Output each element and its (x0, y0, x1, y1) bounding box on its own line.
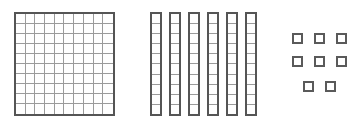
hundreds-flat-cell (26, 94, 36, 104)
tens-rod-cell (152, 14, 160, 24)
hundreds-flat-cell (16, 64, 26, 74)
tens-rod-cell (171, 44, 179, 54)
tens-rod-cell (209, 95, 217, 105)
tens-rod-cell (152, 34, 160, 44)
tens-rod-cell (247, 44, 255, 54)
tens-rod-cell (228, 44, 236, 54)
tens-rod-cell (190, 75, 198, 85)
tens-rods-group (150, 12, 257, 116)
hundreds-flat-cell (84, 104, 94, 114)
hundreds-flat-cell (64, 64, 74, 74)
hundreds-flat-cell (35, 44, 45, 54)
hundreds-flat-cell (103, 44, 113, 54)
hundreds-flat-cell (45, 64, 55, 74)
hundreds-flat-cell (45, 24, 55, 34)
ones-cube (314, 33, 325, 44)
hundreds-flat-cell (94, 64, 104, 74)
tens-rod-cell (171, 85, 179, 95)
tens-rod-cell (247, 54, 255, 64)
tens-rod-cell (228, 64, 236, 74)
tens-rod-cell (247, 14, 255, 24)
hundreds-flat-cell (64, 24, 74, 34)
tens-rod-cell (209, 24, 217, 34)
hundreds-flat-cell (26, 104, 36, 114)
hundreds-flat-cell (74, 44, 84, 54)
tens-rod-cell (152, 95, 160, 105)
hundreds-flat-cell (94, 44, 104, 54)
ones-cube (292, 56, 303, 67)
hundreds-flat-cell (94, 104, 104, 114)
hundreds-flat-cell (35, 34, 45, 44)
hundreds-flat-cell (74, 54, 84, 64)
hundreds-flat-cell (94, 34, 104, 44)
hundreds-flat-cell (94, 94, 104, 104)
tens-rod-cell (190, 85, 198, 95)
tens-rod-cell (171, 75, 179, 85)
tens-rod-cell (171, 34, 179, 44)
hundreds-flat-cell (16, 44, 26, 54)
hundreds-flat-cell (74, 74, 84, 84)
hundreds-flat-cell (26, 64, 36, 74)
tens-rod-cell (247, 105, 255, 114)
hundreds-flat-cell (26, 44, 36, 54)
hundreds-flat-cell (74, 24, 84, 34)
hundreds-flat-cell (55, 54, 65, 64)
hundreds-flat-cell (35, 74, 45, 84)
hundreds-flat-cell (55, 104, 65, 114)
tens-rod-cell (247, 95, 255, 105)
hundreds-flat-cell (45, 34, 55, 44)
hundreds-flat-cell (16, 74, 26, 84)
tens-rod-cell (228, 85, 236, 95)
hundreds-flat-cell (64, 54, 74, 64)
hundreds-flat-cell (74, 104, 84, 114)
tens-rod-cell (228, 95, 236, 105)
hundreds-flat-cell (26, 74, 36, 84)
hundreds-flat-cell (103, 54, 113, 64)
hundreds-flat-cell (55, 74, 65, 84)
hundreds-flat-cell (16, 54, 26, 64)
hundreds-flat-cell (35, 14, 45, 24)
tens-rod-cell (190, 34, 198, 44)
hundreds-flat-cell (84, 74, 94, 84)
hundreds-flat-block (14, 12, 115, 116)
hundreds-flat-cell (55, 24, 65, 34)
hundreds-flat-cell (64, 34, 74, 44)
ones-cube (292, 33, 303, 44)
hundreds-flat-cell (55, 84, 65, 94)
tens-rod-cell (171, 24, 179, 34)
hundreds-flat-cell (84, 44, 94, 54)
tens-rod-cell (152, 105, 160, 114)
tens-rod (245, 12, 257, 116)
hundreds-flat-cell (74, 14, 84, 24)
tens-rod-cell (152, 85, 160, 95)
ones-cubes-row (292, 33, 349, 47)
tens-rod-cell (209, 75, 217, 85)
hundreds-flat-cell (103, 94, 113, 104)
hundreds-flat-cell (84, 84, 94, 94)
tens-rod-cell (190, 14, 198, 24)
tens-rod-cell (171, 14, 179, 24)
hundreds-flat-cell (55, 34, 65, 44)
tens-rod-cell (190, 54, 198, 64)
hundreds-flat-cell (74, 94, 84, 104)
hundreds-flat-cell (16, 24, 26, 34)
hundreds-flat-cell (16, 84, 26, 94)
tens-rod (226, 12, 238, 116)
hundreds-flat-cell (74, 64, 84, 74)
tens-rod-cell (171, 95, 179, 105)
hundreds-flat-cell (94, 54, 104, 64)
hundreds-flat-cell (16, 14, 26, 24)
hundreds-flat-cell (103, 24, 113, 34)
hundreds-flat-cell (64, 74, 74, 84)
tens-rod-cell (190, 64, 198, 74)
hundreds-flat-cell (64, 14, 74, 24)
hundreds-flat-cell (45, 94, 55, 104)
tens-rod-cell (228, 14, 236, 24)
tens-rod-cell (171, 105, 179, 114)
tens-rod (150, 12, 162, 116)
hundreds-flat-cell (26, 34, 36, 44)
tens-rod-cell (209, 14, 217, 24)
hundreds-flat-cell (94, 74, 104, 84)
hundreds-flat-cell (84, 64, 94, 74)
hundreds-flat-cell (84, 34, 94, 44)
